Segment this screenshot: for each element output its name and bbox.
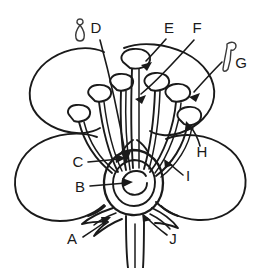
- label-H: H: [197, 143, 208, 160]
- label-J: J: [169, 230, 177, 247]
- label-F: F: [192, 19, 201, 36]
- pedicel-group: [126, 216, 144, 268]
- stamen-3-anther: [110, 74, 133, 91]
- stamen-2-anther: [88, 85, 111, 102]
- label-A: A: [67, 230, 77, 247]
- stamen-1-anther: [68, 105, 90, 122]
- leader-G: [194, 62, 222, 92]
- label-G: G: [235, 54, 247, 71]
- arrowhead-B: [122, 178, 133, 187]
- stamen-cluster: [68, 49, 201, 177]
- stamen-pin-icon: [76, 19, 85, 41]
- stamen-6-anther: [165, 84, 190, 102]
- label-E: E: [164, 19, 174, 36]
- leader-B: [90, 183, 126, 186]
- stamen-hook-icon: [223, 42, 236, 71]
- arrowhead-F: [135, 95, 146, 104]
- flower-line-drawing: A B C D E F G H I J: [0, 0, 262, 268]
- leader-J: [147, 218, 167, 235]
- flower-diagram-figure: A B C D E F G H I J: [0, 0, 262, 268]
- stamen-7-anther: [177, 107, 201, 125]
- pedicel-right-edge: [143, 216, 144, 268]
- pedicel-left-edge: [126, 216, 128, 268]
- label-B: B: [75, 178, 85, 195]
- label-C: C: [73, 153, 84, 170]
- label-I: I: [186, 167, 190, 184]
- ovary-group: [104, 140, 163, 215]
- petal-lower-left: [15, 134, 104, 221]
- sepal-left-outer: [82, 208, 122, 236]
- label-D: D: [91, 19, 102, 36]
- leader-E: [146, 39, 166, 61]
